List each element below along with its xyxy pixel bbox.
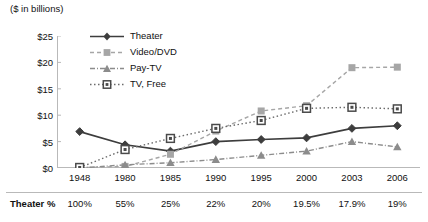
data-point-marker [348,64,355,71]
data-table: Theater % 100%55%25%22%20%19.5%17.9%19% [0,170,428,222]
data-point-marker [394,64,401,71]
legend-swatch-pay-tv [88,61,126,76]
legend-item-pay-tv: Pay-TV [88,61,206,76]
data-point-marker [121,146,129,154]
table-cell-theater-pct: 20% [252,198,271,209]
data-point-marker [167,135,175,143]
chart-legend: Theater Video/DVD Pay-TV TV, Free [88,29,206,93]
legend-label-video-dvd: Video/DVD [130,46,177,57]
table-cell-theater-pct: 19% [388,198,407,209]
y-axis-tick-label: $10 [37,110,53,121]
y-axis-tick-label: $25 [37,31,53,42]
legend-swatch-video-dvd [88,45,126,60]
data-point-marker [76,164,84,168]
legend-item-theater: Theater [88,29,206,44]
table-row: Theater % 100%55%25%22%20%19.5%17.9%19% [0,195,428,215]
y-axis-tick-label: $15 [37,83,53,94]
data-point-marker [348,137,356,145]
data-point-marker [393,143,401,151]
data-point-marker [393,105,401,113]
legend-item-tv-free: TV, Free [88,77,206,92]
data-point-marker [212,138,220,146]
table-cell-theater-pct: 100% [68,198,92,209]
series-tv-free [76,103,401,168]
table-divider [6,192,422,193]
y-axis-tick-label: $5 [42,136,53,147]
table-cell-theater-pct: 19.5% [293,198,320,209]
chart-title: ($ in billions) [10,3,63,14]
legend-swatch-theater [88,29,126,44]
table-cell-theater-pct: 25% [161,198,180,209]
data-point-marker [257,136,265,144]
series-line [80,107,398,167]
table-cell-theater-pct: 55% [116,198,135,209]
legend-item-video-dvd: Video/DVD [88,45,206,60]
table-row-label: Theater % [10,198,55,209]
chart-container: ($ in billions) $0$5$10$15$20$25 Theater… [0,0,428,222]
legend-label-theater: Theater [130,30,163,41]
legend-label-tv-free: TV, Free [130,78,166,89]
y-axis-tick-label: $20 [37,57,53,68]
data-point-marker [348,125,356,133]
legend-label-pay-tv: Pay-TV [130,62,162,73]
y-axis-labels: $0$5$10$15$20$25 [16,36,53,168]
data-point-marker [258,107,265,114]
data-point-marker [76,128,84,136]
data-point-marker [393,122,401,130]
data-point-marker [348,103,356,111]
data-point-marker [303,104,311,112]
data-point-marker [167,151,174,158]
table-cell-theater-pct: 17.9% [338,198,365,209]
data-point-marker [212,125,220,133]
legend-swatch-tv-free [88,77,126,92]
data-point-marker [303,134,311,142]
data-point-marker [257,117,265,125]
table-cell-theater-pct: 22% [206,198,225,209]
